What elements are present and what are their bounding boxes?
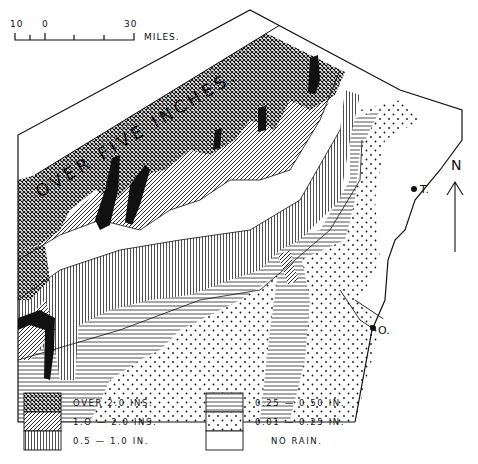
legend-label-1-2: 1.O — 2.0 INS. <box>73 417 157 427</box>
town-t-label: T. <box>419 183 429 196</box>
scale-unit-label: MILES. <box>144 32 180 42</box>
legend-swatch-dots <box>206 412 243 431</box>
legend-swatch-vertical <box>24 431 61 450</box>
legend-label-0-5-1: 0.5 — 1.0 IN. <box>73 436 149 446</box>
rainfall-map: 10 0 30 MILES. <box>0 0 478 464</box>
legend-label-0-01-0-25: 0.01 — 0.25 IN. <box>255 417 345 427</box>
town-marker-icon <box>370 325 376 331</box>
north-arrow-icon <box>447 182 463 252</box>
legend-swatch-blank <box>206 431 243 450</box>
legend-label-no-rain: NO RAIN. <box>271 436 323 446</box>
scale-bar: 10 0 30 MILES. <box>10 19 180 42</box>
legend-label-0-25-0-5: 0.25 — 0.50 IN. <box>255 398 345 408</box>
town-marker-icon <box>411 186 417 192</box>
town-o-label: O. <box>378 324 390 337</box>
legend-swatch-cross-hatch <box>24 393 61 412</box>
legend-label-over-2: OVER 2.0 INS. <box>73 398 153 408</box>
legend-swatch-horizontal <box>206 393 243 412</box>
north-label: N <box>451 157 461 173</box>
scale-tick-0: 0 <box>42 19 49 29</box>
scale-tick-10: 10 <box>10 19 23 29</box>
scale-tick-30: 30 <box>124 19 137 29</box>
legend-swatch-diagonal <box>24 412 61 431</box>
